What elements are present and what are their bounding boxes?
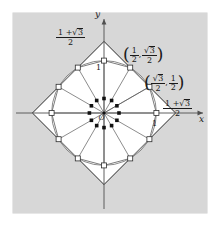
sqrt-symbol-b: √3 [153, 74, 164, 83]
x-axis-label: x [199, 116, 204, 125]
top-vertex-label: 1 +√3 2 [56, 28, 85, 47]
point-a-close-paren: ) [157, 47, 164, 64]
point-a-label: (12, √32) [123, 46, 163, 65]
right-vertex-denominator: 2 [163, 109, 192, 118]
x-unit-tick-label: 1 [152, 120, 157, 128]
point-b-close-paren: ) [178, 75, 185, 92]
right-vertex-label: 1 +√3 2 [163, 99, 192, 118]
top-vertex-denominator: 2 [56, 38, 85, 47]
point-b-open-paren: ( [144, 75, 151, 92]
right-vertex-numerator: 1 +√3 [163, 99, 192, 109]
sqrt-symbol-top: √3 [72, 28, 83, 37]
sqrt-symbol-right: √3 [179, 99, 190, 108]
point-a-x: 12 [130, 47, 139, 65]
right-vertex-fraction: 1 +√3 2 [163, 99, 192, 118]
point-a-open-paren: ( [123, 47, 130, 64]
top-vertex-numerator: 1 +√3 [56, 28, 85, 38]
sqrt-symbol-a: √3 [144, 46, 155, 55]
point-b-x: √32 [151, 74, 166, 93]
diagram-canvas [0, 0, 223, 235]
geometry-figure: y x O 1 1 1 +√3 2 1 +√3 2 (12, √32) (√32… [0, 0, 223, 235]
top-vertex-fraction: 1 +√3 2 [56, 28, 85, 47]
point-b-label: (√32, 12) [144, 74, 184, 93]
y-axis-arrow [102, 19, 107, 25]
point-a-comma: , [139, 50, 142, 59]
point-b-y: 12 [169, 75, 178, 93]
y-unit-tick-label: 1 [96, 64, 101, 72]
point-a-y: √32 [142, 46, 157, 65]
y-axis-label: y [95, 11, 100, 20]
point-b-comma: , [165, 78, 168, 87]
origin-label: O [99, 114, 105, 122]
